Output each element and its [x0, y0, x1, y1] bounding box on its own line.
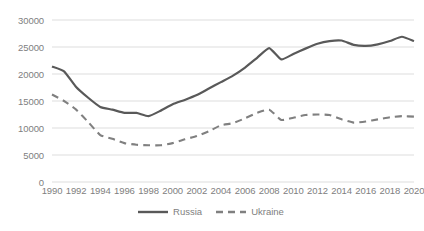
- x-tick-label: 2002: [186, 185, 207, 196]
- plot-canvas: [52, 20, 414, 182]
- x-tick-label: 2008: [259, 185, 280, 196]
- x-tick-label: 2016: [355, 185, 376, 196]
- x-tick-label: 2014: [331, 185, 352, 196]
- x-tick-label: 2010: [283, 185, 304, 196]
- x-tick-label: 2012: [307, 185, 328, 196]
- y-axis: 050001000015000200002500030000: [0, 0, 48, 202]
- y-tick-label: 15000: [18, 96, 44, 107]
- series-line-ukraine: [52, 95, 414, 146]
- x-tick-label: 1994: [90, 185, 111, 196]
- y-tick-label: 20000: [18, 69, 44, 80]
- x-axis: 1990199219941996199820002002200420062008…: [52, 185, 414, 199]
- y-tick-label: 5000: [23, 150, 44, 161]
- x-tick-label: 2006: [235, 185, 256, 196]
- legend-swatch-ukraine: [216, 207, 246, 217]
- series-line-russia: [52, 37, 414, 116]
- x-tick-label: 2020: [404, 185, 424, 196]
- legend-item-ukraine[interactable]: Ukraine: [216, 206, 284, 217]
- legend-item-russia[interactable]: Russia: [138, 206, 202, 217]
- y-tick-label: 30000: [18, 15, 44, 26]
- chart-legend: RussiaUkraine: [0, 206, 422, 217]
- plot-area: [52, 20, 414, 182]
- x-tick-label: 1996: [114, 185, 135, 196]
- x-tick-label: 1990: [42, 185, 63, 196]
- y-tick-label: 25000: [18, 42, 44, 53]
- gridlines: [52, 20, 414, 182]
- series-lines: [52, 37, 414, 146]
- x-tick-label: 2000: [162, 185, 183, 196]
- x-tick-label: 1992: [66, 185, 87, 196]
- legend-label: Russia: [173, 206, 202, 217]
- legend-swatch-russia: [138, 207, 168, 217]
- x-tick-label: 2004: [211, 185, 232, 196]
- y-tick-label: 10000: [18, 123, 44, 134]
- x-tick-label: 2018: [379, 185, 400, 196]
- legend-label: Ukraine: [251, 206, 284, 217]
- x-tick-label: 1998: [138, 185, 159, 196]
